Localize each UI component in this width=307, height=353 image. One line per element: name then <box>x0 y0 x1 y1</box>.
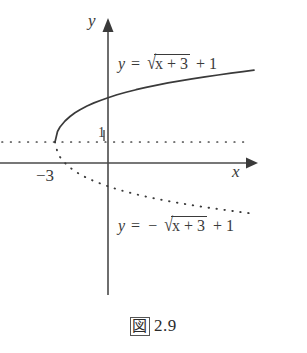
lower-equation-equals: = <box>129 217 142 234</box>
axis-label-y: y <box>88 12 96 29</box>
upper-equation-equals: = <box>129 55 142 72</box>
figure-container: y x −3 1 y = √x + 3 + 1 y = − √x + 3 + 1… <box>0 0 307 353</box>
caption-figure-number: 2.9 <box>154 316 177 335</box>
lower-curve-equation: y = − √x + 3 + 1 <box>118 216 236 234</box>
lower-equation-lhs: y <box>118 217 125 234</box>
upper-equation-tail: + 1 <box>194 55 219 72</box>
x-axis-arrowhead <box>246 158 258 169</box>
lower-equation-radicand: x + 3 <box>171 216 207 234</box>
tick-label-minus-three: −3 <box>36 167 54 184</box>
upper-equation-radicand: x + 3 <box>154 54 190 72</box>
upper-equation-radical: √x + 3 <box>146 54 190 72</box>
caption-figure-kanji: 図 <box>130 317 150 336</box>
lower-equation-minus: − <box>146 217 159 234</box>
y-axis-arrowhead <box>103 18 114 32</box>
upper-equation-lhs: y <box>118 55 125 72</box>
axis-label-x: x <box>232 163 240 180</box>
tick-label-one: 1 <box>98 126 105 140</box>
radical-sign-icon: √ <box>164 216 173 236</box>
figure-caption: 図2.9 <box>0 316 307 336</box>
radical-sign-icon: √ <box>147 54 156 74</box>
upper-curve-equation: y = √x + 3 + 1 <box>118 54 219 72</box>
curve-upper-branch <box>55 70 254 142</box>
curve-lower-branch <box>55 142 251 213</box>
y-axis <box>103 18 114 295</box>
lower-equation-radical: √x + 3 <box>163 216 207 234</box>
lower-equation-tail: + 1 <box>211 217 236 234</box>
